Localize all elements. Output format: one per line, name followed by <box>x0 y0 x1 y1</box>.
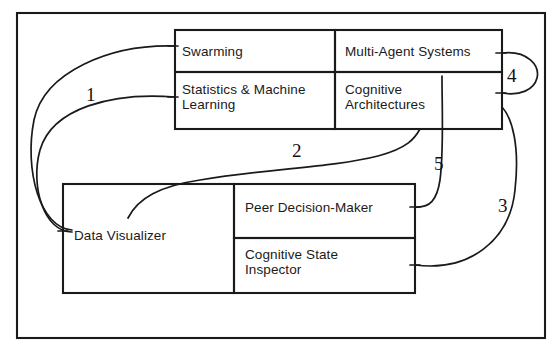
box-label-data-visualizer: Data Visualizer <box>74 228 166 243</box>
box-label-cognitive-architectures: Cognitive Architectures <box>345 82 425 112</box>
connector-number-5: 5 <box>434 154 444 173</box>
outer-frame <box>17 13 545 338</box>
connector-number-1: 1 <box>86 85 96 104</box>
box-label-swarming: Swarming <box>182 44 243 59</box>
connector-1-data-visualizer-to-statistics-machine-learning <box>37 96 175 232</box>
diagram-canvas: SwarmingMulti-Agent SystemsStatistics & … <box>0 0 559 358</box>
box-label-multi-agent-systems: Multi-Agent Systems <box>345 44 471 59</box>
box-label-cognitive-state-inspector: Cognitive State Inspector <box>245 247 338 277</box>
box-label-statistics-machine-learning: Statistics & Machine Learning <box>182 82 306 112</box>
connector-number-2: 2 <box>292 141 302 160</box>
connector-number-3: 3 <box>498 196 508 215</box>
connector-1-data-visualizer-to-swarming <box>31 46 175 230</box>
connector-number-4: 4 <box>507 66 517 85</box>
connector-3-cognitive-state-inspector-to-top-right-box <box>415 107 517 266</box>
box-label-peer-decision-maker: Peer Decision-Maker <box>245 200 373 215</box>
diagram-vector-layer <box>0 0 559 358</box>
